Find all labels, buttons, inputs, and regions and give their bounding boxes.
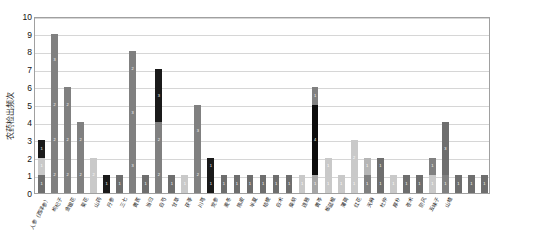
bar[interactable]: 1 [390, 175, 397, 193]
bar-segment: 1 [468, 175, 475, 193]
bar[interactable]: 13 [442, 122, 449, 193]
x-tick-label: 麦冬 [221, 196, 232, 208]
bar-segment: 3 [194, 105, 201, 158]
bar-segment: 1 [207, 175, 214, 193]
bar-segment: 1 [364, 175, 371, 193]
bar[interactable]: 1 [468, 175, 475, 193]
bar[interactable]: 1 [286, 175, 293, 193]
bar-segment: 1 [377, 158, 384, 176]
bar-segment: 1 [221, 175, 228, 193]
x-tick-label: 党参 [208, 196, 219, 208]
bar[interactable]: 1 [168, 175, 175, 193]
bar[interactable]: 1 [481, 175, 488, 193]
bar[interactable]: 23 [194, 105, 201, 194]
bar[interactable]: 1 [234, 175, 241, 193]
bar[interactable]: 332 [129, 51, 136, 193]
y-tick-label: 3 [16, 137, 32, 146]
bar-segment: 1 [142, 175, 149, 193]
y-tick-label: 1 [16, 172, 32, 181]
x-tick-label: 菊花 [78, 196, 89, 208]
x-tick-label: 桔梗 [260, 196, 271, 208]
y-tick-label: 6 [16, 84, 32, 93]
bar[interactable]: 1 [403, 175, 410, 193]
bar-segment: 1 [312, 175, 319, 193]
bar-segment: 1 [364, 158, 371, 176]
bar[interactable]: 1 [142, 175, 149, 193]
bar[interactable]: 11 [377, 158, 384, 193]
bar-segment: 1 [377, 175, 384, 193]
x-tick-label: 半夏 [247, 196, 258, 208]
bar-chart: 农药检出频次 012345678910 11122232222221133212… [0, 0, 534, 248]
bar[interactable]: 2223 [51, 34, 58, 193]
bar-segment: 1 [168, 175, 175, 193]
bar-segment: 1 [38, 140, 45, 158]
x-tick-label: 当归 [143, 196, 154, 208]
bar[interactable]: 12 [351, 140, 358, 193]
bar-segment: 1 [338, 175, 345, 193]
bar[interactable]: 1 [260, 175, 267, 193]
bar-segment: 2 [51, 158, 58, 193]
bar-segment: 2 [90, 158, 97, 193]
x-tick-label: 陈皮 [234, 196, 245, 208]
bar[interactable]: 11 [429, 158, 436, 193]
bar-segment: 1 [325, 158, 332, 176]
x-tick-label: 三七 [117, 196, 128, 208]
bar[interactable]: 223 [155, 69, 162, 193]
x-tick-label: 甘草 [169, 196, 180, 208]
bar[interactable]: 1 [455, 175, 462, 193]
bar[interactable]: 11 [207, 158, 214, 193]
bar[interactable]: 222 [64, 87, 71, 193]
x-tick-label: 板蓝根 [323, 196, 336, 213]
bar[interactable]: 2 [90, 158, 97, 193]
x-tick-label: 柴胡 [286, 196, 297, 208]
bar-segment: 1 [286, 175, 293, 193]
bar-segment: 1 [351, 175, 358, 193]
bar[interactable]: 1 [273, 175, 280, 193]
x-tick-label: 黄芪 [130, 196, 141, 208]
bar[interactable]: 1 [416, 175, 423, 193]
bar-segment: 1 [403, 175, 410, 193]
y-tick-label: 8 [16, 48, 32, 57]
bar[interactable]: 11 [325, 158, 332, 193]
bar[interactable]: 1 [221, 175, 228, 193]
bar-segment: 1 [273, 175, 280, 193]
bar[interactable]: 111 [38, 140, 45, 193]
y-axis-title-text: 农药检出频次 [4, 91, 15, 139]
bar-segment: 2 [77, 158, 84, 193]
bar-segment: 3 [51, 34, 58, 87]
x-tick-label: 苍术 [404, 196, 415, 208]
x-tick-label: 白术 [273, 196, 284, 208]
bar[interactable]: 1 [338, 175, 345, 193]
bar-segment: 1 [481, 175, 488, 193]
bar-segment: 1 [38, 175, 45, 193]
x-tick-label: 红花 [351, 196, 362, 208]
bar[interactable]: 1 [116, 175, 123, 193]
x-tick-label: 枸杞子 [49, 196, 62, 213]
bar[interactable]: 22 [77, 122, 84, 193]
x-tick-label: 川芎 [195, 196, 206, 208]
x-tick-label: 厚朴 [391, 196, 402, 208]
x-tick-label: 山楂 [443, 196, 454, 208]
plot-area: 1112223222222113321223112311111111114111… [34, 17, 490, 194]
bar[interactable]: 1 [103, 175, 110, 193]
x-tick-label: 杜仲 [378, 196, 389, 208]
bar-segment: 1 [325, 175, 332, 193]
bar-segment: 3 [442, 122, 449, 175]
x-tick-label: 黄芩 [312, 196, 323, 208]
bar[interactable]: 11 [364, 158, 371, 193]
bar[interactable]: 141 [312, 87, 319, 193]
bar-segment: 1 [116, 175, 123, 193]
bar[interactable]: 1 [299, 175, 306, 193]
x-tick-label: 天麻 [365, 196, 376, 208]
bar-segment: 1 [390, 175, 397, 193]
y-tick-label: 7 [16, 66, 32, 75]
bar-segment: 2 [64, 158, 71, 193]
y-axis-tick-labels: 012345678910 [16, 17, 32, 194]
x-tick-label: 丹参 [104, 196, 115, 208]
bar-segment: 3 [129, 87, 136, 140]
bar-segment: 2 [77, 122, 84, 157]
bar[interactable]: 1 [181, 175, 188, 193]
bar-segment: 2 [64, 87, 71, 122]
bar[interactable]: 1 [247, 175, 254, 193]
bar-segment: 3 [155, 69, 162, 122]
